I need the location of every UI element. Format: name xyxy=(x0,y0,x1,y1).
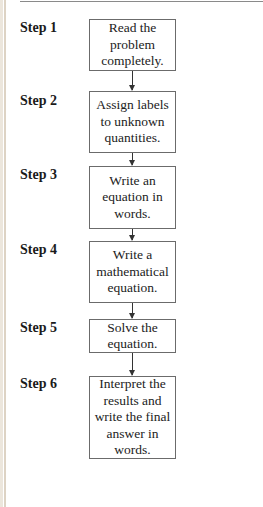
arrow-down-icon xyxy=(132,353,133,375)
step-2-text: Assign labels to unknown quantities. xyxy=(96,97,168,147)
arrow-down-icon xyxy=(132,303,133,318)
step-2-box: Assign labels to unknown quantities. xyxy=(89,91,176,153)
step-1-box: Read the problem completely. xyxy=(89,19,176,71)
step-3-label: Step 3 xyxy=(20,167,57,183)
step-3-text: Write an equation in words. xyxy=(102,173,162,223)
step-5-text: Solve the equation. xyxy=(107,320,158,353)
step-4-text: Write a mathematical equation. xyxy=(96,247,169,297)
step-1-label: Step 1 xyxy=(20,20,57,36)
step-5-label: Step 5 xyxy=(20,320,57,336)
step-3-box: Write an equation in words. xyxy=(89,166,176,229)
step-6-box: Interpret the results and write the fina… xyxy=(89,376,176,459)
step-1-text: Read the problem completely. xyxy=(101,20,163,70)
step-5-box: Solve the equation. xyxy=(89,319,176,353)
step-4-box: Write a mathematical equation. xyxy=(89,241,176,303)
page-edge-line xyxy=(4,0,6,507)
top-rule xyxy=(20,1,263,2)
arrow-down-icon xyxy=(132,153,133,165)
arrow-down-icon xyxy=(132,229,133,240)
step-6-text: Interpret the results and write the fina… xyxy=(95,376,171,459)
arrow-down-icon xyxy=(132,71,133,90)
step-4-label: Step 4 xyxy=(20,242,57,258)
step-6-label: Step 6 xyxy=(20,376,57,392)
step-2-label: Step 2 xyxy=(20,93,57,109)
page-edge-strip xyxy=(0,0,3,507)
